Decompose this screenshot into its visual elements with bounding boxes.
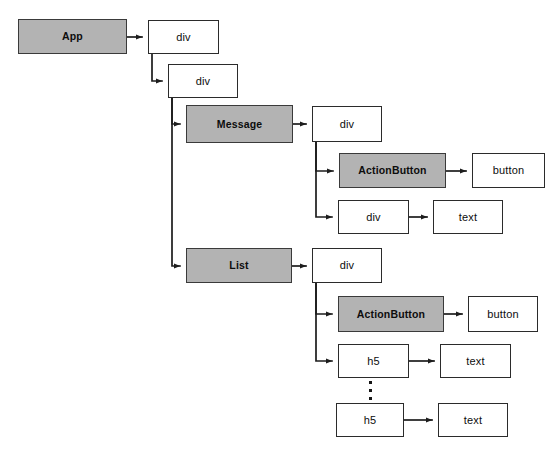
node-list-h5-last[interactable]: h5 [336,403,404,437]
node-message-div[interactable]: div [312,106,382,142]
node-list-div[interactable]: div [312,248,382,283]
node-div-inner-label: div [196,75,211,86]
node-message-div-label: div [340,118,355,129]
ellipsis-dot [369,381,372,384]
node-message[interactable]: Message [186,105,293,143]
node-message-actionbutton[interactable]: ActionButton [339,153,446,188]
node-list-h5-first-label: h5 [367,355,380,366]
ellipsis-dot [369,389,372,392]
node-message-text[interactable]: text [433,200,503,234]
node-message-div2-label: div [366,211,381,222]
ellipsis-dot [369,397,372,400]
edge-listdiv-to-actionbutton [316,283,332,314]
node-message-button[interactable]: button [472,153,545,188]
node-list-button-label: button [487,308,518,319]
node-list-button[interactable]: button [468,296,538,332]
edge-msgdiv-to-div [316,142,332,217]
edge-div-to-message [172,98,180,124]
edge-div-to-div [152,54,162,81]
edge-div-to-list [172,98,180,266]
node-list-h5-last-label: h5 [364,414,377,425]
node-list-actionbutton[interactable]: ActionButton [338,296,444,332]
node-app[interactable]: App [18,19,127,54]
node-message-button-label: button [493,165,524,176]
node-message-div2[interactable]: div [338,200,409,234]
node-list-text-first[interactable]: text [440,344,511,378]
node-message-label: Message [217,118,262,129]
node-list-text-first-label: text [466,355,484,366]
node-list-label: List [229,260,248,271]
node-list-text-last[interactable]: text [438,403,508,437]
vertical-ellipsis-icon [368,381,372,400]
node-div-root[interactable]: div [148,20,219,54]
component-tree-diagram: App div div Message div ActionButton but… [0,0,555,455]
node-list-text-last-label: text [464,414,482,425]
edge-msgdiv-to-actionbutton [316,142,333,171]
node-list[interactable]: List [186,248,292,283]
node-div-root-label: div [176,31,191,42]
node-list-div-label: div [340,260,355,271]
node-app-label: App [62,31,83,42]
node-div-inner[interactable]: div [168,64,238,98]
node-list-h5-first[interactable]: h5 [338,344,409,378]
node-message-actionbutton-label: ActionButton [358,165,426,176]
node-message-text-label: text [459,211,477,222]
node-list-actionbutton-label: ActionButton [357,308,425,319]
edge-listdiv-to-h5 [316,283,332,361]
